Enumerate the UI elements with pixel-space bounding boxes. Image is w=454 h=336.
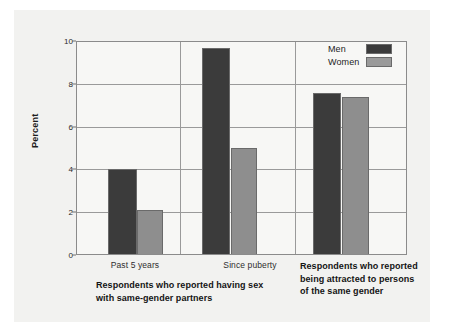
group-separator-1	[180, 42, 181, 254]
bar-men-attracted	[313, 93, 341, 254]
legend: Men Women	[328, 42, 392, 68]
group-separator-2	[295, 42, 296, 254]
caption-left-line-1: Respondents who reported having sex	[96, 279, 281, 292]
caption-right-line-1: Respondents who reported	[300, 260, 430, 273]
y-tick-label-2: 2	[33, 208, 73, 217]
plot-area	[76, 41, 407, 255]
caption-right-line-3: of the same gender	[300, 285, 430, 298]
chart-figure: Percent 10 8 6 4 2 0 Men	[0, 0, 454, 336]
legend-swatch-men	[366, 44, 392, 54]
y-tick-label-0: 0	[33, 251, 73, 260]
bar-men-past-5-years	[108, 169, 137, 254]
caption-right: Respondents who reported being attracted…	[300, 260, 430, 298]
legend-item-men: Men	[328, 42, 392, 55]
legend-label-men: Men	[328, 44, 366, 54]
y-tick-label-10: 10	[33, 37, 73, 46]
bar-women-past-5-years	[137, 210, 163, 255]
legend-swatch-women	[366, 57, 392, 67]
bar-women-attracted	[342, 97, 369, 254]
bar-women-since-puberty	[231, 148, 257, 254]
y-tick-label-8: 8	[33, 79, 73, 88]
gridline-8	[77, 84, 406, 85]
x-category-since-puberty: Since puberty	[205, 260, 295, 270]
y-tick-label-4: 4	[33, 165, 73, 174]
x-category-past-5-years: Past 5 years	[90, 260, 180, 270]
y-tick-label-6: 6	[33, 122, 73, 131]
legend-item-women: Women	[328, 55, 392, 68]
legend-label-women: Women	[328, 57, 366, 67]
caption-left: Respondents who reported having sex with…	[96, 279, 281, 304]
bar-men-since-puberty	[202, 48, 230, 254]
caption-right-line-2: being attracted to persons	[300, 273, 430, 286]
caption-left-line-2: with same-gender partners	[96, 292, 281, 305]
